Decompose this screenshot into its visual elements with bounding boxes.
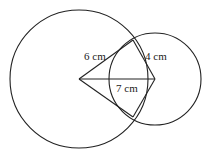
label-4cm: 4 cm <box>145 50 167 62</box>
label-6cm: 6 cm <box>84 50 106 62</box>
label-7cm: 7 cm <box>116 82 138 94</box>
diagram-canvas: 6 cm 4 cm 7 cm <box>0 0 209 158</box>
